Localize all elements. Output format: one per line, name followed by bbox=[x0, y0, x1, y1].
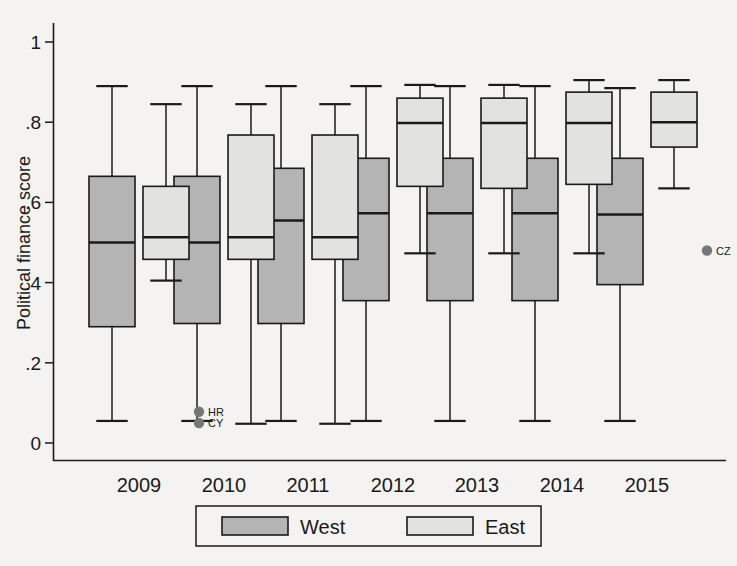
box-rect bbox=[481, 98, 527, 188]
outlier-cy: CY bbox=[194, 417, 224, 429]
legend-swatch-east bbox=[407, 517, 473, 535]
outlier-dot-icon bbox=[194, 418, 204, 428]
outlier-label: CY bbox=[208, 417, 224, 429]
box-rect bbox=[566, 92, 612, 184]
y-axis-title: Political finance score bbox=[14, 156, 34, 330]
box-rect bbox=[651, 92, 697, 147]
outlier-dot-icon bbox=[702, 245, 712, 255]
legend-label-west: West bbox=[300, 516, 346, 538]
y-tick-label: .2 bbox=[25, 353, 41, 374]
y-tick-label: .8 bbox=[25, 112, 41, 133]
y-tick-label: .6 bbox=[25, 192, 41, 213]
legend-swatch-west bbox=[222, 517, 288, 535]
x-tick-label: 2011 bbox=[286, 474, 329, 496]
y-tick-label: 0 bbox=[30, 433, 41, 454]
x-tick-label: 2015 bbox=[625, 474, 670, 496]
outlier-cz: CZ bbox=[702, 245, 731, 257]
y-tick-label: .4 bbox=[25, 273, 41, 294]
legend: WestEast bbox=[196, 506, 541, 546]
box-rect bbox=[89, 176, 135, 326]
box-rect bbox=[228, 135, 274, 259]
outlier-label: CZ bbox=[716, 245, 731, 257]
outlier-dot-icon bbox=[194, 407, 204, 417]
outlier-label: HR bbox=[208, 406, 224, 418]
legend-label-east: East bbox=[485, 516, 525, 538]
x-tick-label: 2009 bbox=[117, 474, 162, 496]
x-tick-label: 2014 bbox=[540, 474, 585, 496]
y-tick-label: 1 bbox=[30, 32, 41, 53]
boxplot-figure: Political finance score 1.8.6.4.20 20092… bbox=[0, 0, 737, 566]
y-axis-title-text: Political finance score bbox=[14, 156, 34, 330]
x-tick-label: 2010 bbox=[202, 474, 247, 496]
box-rect bbox=[143, 186, 189, 259]
boxplot-chart: Political finance score 1.8.6.4.20 20092… bbox=[0, 0, 737, 566]
outlier-hr: HR bbox=[194, 406, 224, 418]
x-tick-label: 2012 bbox=[371, 474, 416, 496]
box-rect bbox=[312, 135, 358, 259]
box-rect bbox=[397, 98, 443, 186]
x-tick-label: 2013 bbox=[455, 474, 500, 496]
